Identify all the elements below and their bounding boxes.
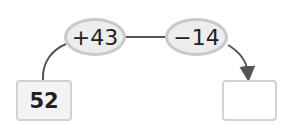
result-answer-box[interactable]	[222, 80, 277, 121]
operation-subtract-label: −14	[173, 25, 219, 50]
arrow-connector	[228, 45, 248, 74]
start-connector	[43, 44, 66, 80]
operation-subtract-oval: −14	[165, 18, 228, 56]
start-value: 52	[29, 89, 58, 113]
start-value-box: 52	[16, 80, 72, 121]
operation-add-label: +43	[72, 25, 118, 50]
operation-add-oval: +43	[64, 18, 126, 56]
